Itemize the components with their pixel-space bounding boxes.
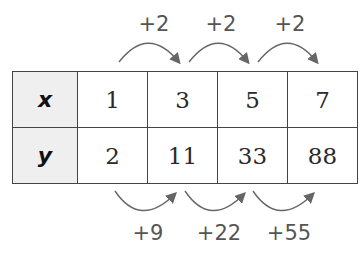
bottom-arrow-3 — [253, 191, 312, 211]
top-arrow-3 — [258, 43, 316, 62]
bottom-arrow-2 — [185, 191, 243, 211]
xy-table: x 1 3 5 7 y 2 11 33 88 — [12, 71, 358, 184]
cell-y-1: 2 — [78, 128, 148, 184]
row-header-y: y — [13, 128, 78, 184]
top-arrow-1 — [119, 43, 178, 62]
bottom-difference-3: +55 — [267, 221, 311, 245]
row-header-x: x — [13, 72, 78, 128]
table-row-y: y 2 11 33 88 — [13, 128, 358, 184]
bottom-difference-1: +9 — [133, 221, 164, 245]
cell-y-4: 88 — [288, 128, 358, 184]
top-arrow-2 — [189, 43, 247, 62]
top-difference-2: +2 — [206, 12, 237, 36]
bottom-arrow-1 — [115, 191, 174, 211]
top-difference-3: +2 — [275, 12, 306, 36]
cell-y-2: 11 — [148, 128, 218, 184]
bottom-difference-2: +22 — [197, 221, 241, 245]
cell-x-3: 5 — [218, 72, 288, 128]
cell-y-3: 33 — [218, 128, 288, 184]
cell-x-4: 7 — [288, 72, 358, 128]
cell-x-1: 1 — [78, 72, 148, 128]
cell-x-2: 3 — [148, 72, 218, 128]
table-row-x: x 1 3 5 7 — [13, 72, 358, 128]
top-difference-1: +2 — [139, 12, 170, 36]
